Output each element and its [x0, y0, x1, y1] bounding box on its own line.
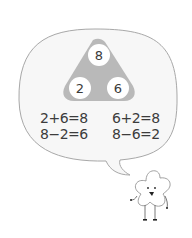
equation-2: 6+2=8 — [112, 110, 160, 126]
star-body — [135, 171, 170, 206]
star-arm-left — [131, 196, 137, 200]
star-eye-left — [147, 187, 149, 189]
whole-number: 8 — [95, 48, 103, 63]
star-arm-right — [165, 196, 167, 208]
part-right-number: 6 — [114, 81, 122, 96]
star-hand-right — [166, 207, 168, 209]
star-eye-right — [154, 187, 156, 189]
equation-4: 8−6=2 — [112, 126, 160, 142]
star-hand-left — [130, 199, 132, 201]
equation-3: 8−2=6 — [40, 126, 88, 142]
illustration: 8 2 6 — [0, 0, 192, 238]
part-left-number: 2 — [76, 81, 84, 96]
equation-1: 2+6=8 — [40, 110, 88, 126]
star-foot-right — [153, 219, 157, 221]
star-character — [130, 171, 170, 221]
star-foot-left — [143, 219, 147, 221]
